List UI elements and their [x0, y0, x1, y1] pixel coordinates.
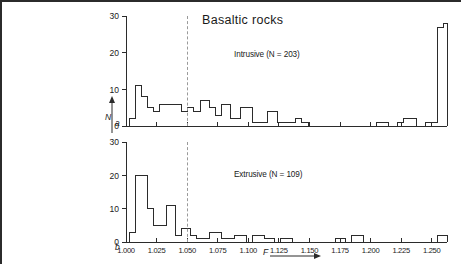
y-tick-label: 20: [110, 171, 120, 181]
y-tick-label: 10: [110, 204, 120, 214]
x-tick-label: 1.075: [209, 246, 227, 255]
y-tick-label: 30: [110, 11, 120, 21]
x-tick-label: 1.150: [301, 246, 319, 255]
x-tick-label: 1.125: [270, 246, 288, 255]
x-tick-label: 1.000: [117, 246, 135, 255]
histogram-plot: 010203001020301.0001.0251.0501.0751.1001…: [2, 2, 461, 264]
x-tick-label: 1.250: [423, 246, 441, 255]
x-tick-label: 1.100: [240, 246, 258, 255]
panel-b-marker-line: [187, 142, 188, 242]
x-tick-label: 1.200: [362, 246, 380, 255]
x-tick-label: 1.050: [178, 246, 196, 255]
figure-frame: Basaltic rocks Intrusive (N = 203) Extru…: [0, 0, 461, 264]
x-tick-label: 1.225: [392, 246, 410, 255]
y-tick-label: 0: [114, 121, 119, 131]
y-tick-label: 20: [110, 48, 120, 58]
y-tick-label: 10: [110, 85, 120, 95]
x-tick-label: 1.175: [331, 246, 349, 255]
panel-a-marker-line: [187, 16, 188, 126]
x-tick-label: 1.025: [148, 246, 166, 255]
panel-a-histogram: [126, 23, 447, 126]
panel-b-histogram: [126, 175, 447, 242]
y-tick-label: 30: [110, 137, 120, 147]
